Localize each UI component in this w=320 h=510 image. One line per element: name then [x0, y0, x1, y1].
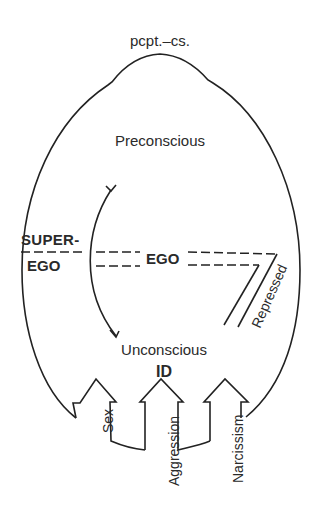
superego-label-line1: SUPER-: [21, 232, 79, 247]
ego-dashed-upper-right: [188, 252, 277, 254]
preconscious-label: Preconscious: [0, 133, 320, 148]
ego-label: EGO: [146, 251, 179, 266]
superego-label-line2: EGO: [27, 258, 60, 273]
id-label: ID: [0, 364, 320, 380]
perception-consciousness-label: pcpt.–cs.: [0, 33, 320, 48]
drive-label-aggression: Aggression: [167, 416, 181, 486]
drive-label-sex: Sex: [101, 409, 115, 433]
arc-arrowhead-top: [106, 185, 116, 191]
unconscious-label: Unconscious: [0, 342, 320, 357]
inner-arc: [90, 190, 116, 336]
drive-label-narcissism: Narcissism: [231, 415, 245, 483]
psychic-apparatus-diagram: pcpt.–cs. Preconscious SUPER- EGO EGO Re…: [0, 0, 320, 510]
